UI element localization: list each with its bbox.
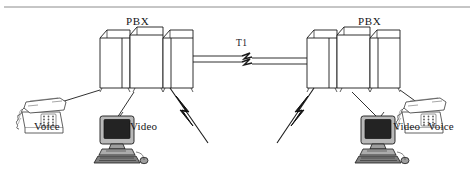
pbx-right [307,27,400,92]
trunk-break-icon [242,59,252,65]
pbx-left [100,27,193,92]
link-pbx-left-to-computer [117,92,134,118]
link-pbx-right-wireless [277,88,314,143]
pbx-right-label: PBX [358,15,381,27]
lightning-bolt-icon [291,96,308,126]
trunk-break-icon [242,53,252,59]
diagram-canvas [0,0,475,171]
t1-trunk-label: T1 [236,38,247,48]
voice-right-label: Voice [428,120,454,132]
video-right-label: Video [393,120,420,132]
t1-trunk-link [190,53,307,65]
video-left-label: Video [130,120,157,132]
pbx-left-label: PBX [126,15,149,27]
link-pbx-left-wireless [170,88,208,143]
voice-left-label: Voice [34,120,60,132]
lightning-bolt-icon [176,96,193,126]
network-diagram-figure: PBX PBX T1 Voice Video Video Voice [0,0,475,171]
link-pbx-right-to-computer [352,92,378,118]
